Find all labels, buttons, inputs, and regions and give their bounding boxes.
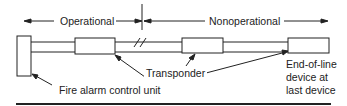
end-of-line-device-box	[288, 38, 329, 53]
transponder-box-1	[75, 38, 115, 54]
nonoperational-label: Nonoperational	[207, 15, 282, 27]
operational-label: Operational	[58, 15, 116, 27]
circuit-wires	[31, 42, 288, 52]
eol-label-line2: device at	[284, 71, 330, 83]
control-unit-label: Fire alarm control unit	[57, 84, 163, 96]
transponder-label: Transponder	[144, 67, 207, 79]
eol-label-line1: End-of-line	[284, 58, 339, 70]
control-unit-box	[17, 36, 31, 76]
eol-label-line3: last device	[284, 84, 338, 96]
transponder-box-2	[182, 38, 223, 53]
